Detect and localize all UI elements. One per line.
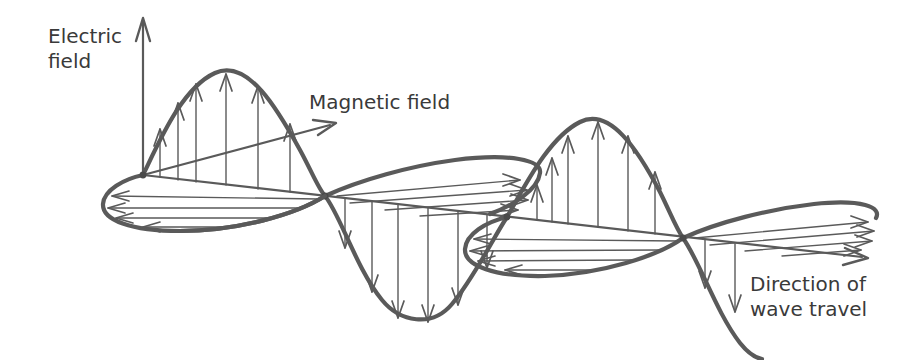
electric-field-arrows-crest-2 <box>531 122 661 234</box>
magnetic-field-label: Magnetic field <box>309 90 450 115</box>
magnetic-lobe-2 <box>325 157 540 216</box>
electric-field-arrows-crest-1 <box>154 74 296 192</box>
direction-of-wave-travel-label: Direction of wave travel <box>750 272 867 322</box>
vertical-electric-axis <box>136 18 150 175</box>
electric-field-label: Electric field <box>48 24 122 74</box>
magnetic-lobe-3 <box>465 217 683 276</box>
em-wave-figure: Electric field Magnetic field Direction … <box>0 0 921 360</box>
magnetic-lobe-1-front-edge <box>180 196 325 231</box>
